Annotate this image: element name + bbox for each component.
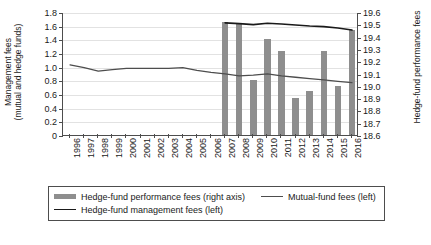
x-axis-tick [224,134,225,138]
x-axis-tick [252,134,253,138]
legend-label: Mutual-fund fees (left) [288,192,376,202]
x-axis-tick-label: 2006 [214,138,223,158]
x-axis-tick-label: 1999 [115,138,124,158]
x-axis-tick-label: 2002 [157,138,166,158]
plot-area: 00.20.40.60.81.01.21.41.61.8 18.618.718.… [62,13,358,136]
legend-row-1: Hedge-fund performance fees (right axis)… [54,190,379,203]
x-axis-tick-label: 2015 [340,138,349,158]
x-axis-tick-label: 2013 [312,138,321,158]
figure-caption [48,232,388,240]
y-axis-right-tick-label: 18.9 [363,95,381,104]
y-axis-left-tick [59,136,63,137]
x-axis-tick-label: 2007 [228,138,237,158]
y-axis-left-tick-label: 1.8 [44,9,57,18]
x-axis-tick-label: 2000 [129,138,138,158]
y-axis-left-title: Management fees (mutual and hedge funds) [3,7,23,137]
bar-swatch-icon [54,194,76,199]
x-axis-tick [97,134,98,138]
y-axis-right-tick-label: 18.6 [363,132,381,141]
y-axis-left-tick-label: 1.2 [44,50,57,59]
x-axis-tick [309,134,310,138]
y-axis-left-tick-label: 0.4 [44,104,57,113]
y-axis-left-tick-label: 1.6 [44,22,57,31]
legend-label: Hedge-fund management fees (left) [81,205,223,215]
x-axis-tick-label: 2008 [242,138,251,158]
line-path [225,23,352,30]
x-axis-tick [182,134,183,138]
x-axis-tick-label: 2009 [256,138,265,158]
x-axis-tick-label: 2003 [171,138,180,158]
y-axis-right-tick-label: 19.5 [363,21,381,30]
x-axis-tick [266,134,267,138]
x-axis-tick [140,134,141,138]
line-path [70,65,352,83]
chart-legend: Hedge-fund performance fees (right axis)… [48,186,385,221]
chart-figure: Management fees (mutual and hedge funds)… [0,0,431,245]
x-axis-tick [295,134,296,138]
x-axis-tick-label: 2001 [143,138,152,158]
x-axis-tick [280,134,281,138]
line-swatch-dark-icon [54,209,76,210]
y-axis-right-tick-label: 19.0 [363,82,381,91]
legend-row-2: Hedge-fund management fees (left) [54,203,379,216]
x-axis-tick-label: 2014 [326,138,335,158]
legend-item-hedge-fund-management-fees: Hedge-fund management fees (left) [54,205,223,215]
y-axis-right-tick [357,136,361,137]
y-axis-right-tick-label: 19.3 [363,45,381,54]
y-axis-right-tick-label: 18.7 [363,119,381,128]
x-axis-tick [351,134,352,138]
x-axis-tick [196,134,197,138]
y-axis-left-tick-label: 0.6 [44,91,57,100]
x-axis-tick [69,134,70,138]
x-axis-tick [111,134,112,138]
x-axis-tick [210,134,211,138]
x-axis-tick [238,134,239,138]
x-axis-tick-label: 2010 [270,138,279,158]
y-axis-right-tick-label: 19.1 [363,70,381,79]
x-axis-tick-label: 2004 [185,138,194,158]
x-axis-tick [125,134,126,138]
x-axis-tick-label: 2011 [284,138,293,157]
y-axis-right-tick-label: 18.8 [363,107,381,116]
x-axis-tick [168,134,169,138]
y-axis-left-tick-label: 1.4 [44,36,57,45]
legend-item-hedge-fund-performance-fees: Hedge-fund performance fees (right axis) [54,192,245,202]
x-axis-tick-label: 2016 [354,138,363,158]
x-axis-tick [337,134,338,138]
x-axis-tick-label: 1998 [101,138,110,158]
x-axis-tick-label: 1997 [87,138,96,158]
y-axis-left-tick-label: 0.2 [44,118,57,127]
legend-item-mutual-fund-fees: Mutual-fund fees (left) [261,192,376,202]
y-axis-right-title: Hedge-fund performance fees [412,2,422,132]
y-axis-right-tick-label: 19.2 [363,58,381,67]
x-axis-tick-label: 2005 [199,138,208,158]
x-axis-tick-label: 2012 [298,138,307,158]
legend-label: Hedge-fund performance fees (right axis) [81,192,245,202]
line-series-group [63,13,359,136]
x-axis-tick [323,134,324,138]
x-axis-tick [83,134,84,138]
y-axis-left-tick-label: 0 [52,132,57,141]
y-axis-left-tick-label: 1.0 [44,63,57,72]
x-axis-labels: 1996199719981999200020012002200320042005… [62,138,358,182]
x-axis-tick-label: 1996 [73,138,82,158]
x-axis-tick [154,134,155,138]
y-axis-right-tick-label: 19.6 [363,9,381,18]
y-axis-left-tick-label: 0.8 [44,77,57,86]
y-axis-right-tick-label: 19.4 [363,33,381,42]
line-swatch-icon [261,196,283,197]
